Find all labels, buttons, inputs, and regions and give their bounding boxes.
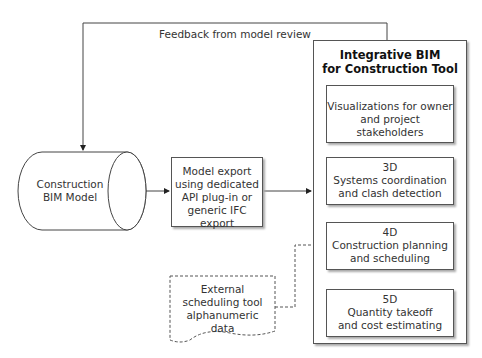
integrative-bim-tool-box: Integrative BIM for Construction Tool Vi…	[313, 40, 467, 344]
export-line: Model export	[172, 165, 262, 178]
module-tag: 5D	[327, 293, 453, 306]
module-text: 5D Quantity takeoff and cost estimating	[327, 293, 453, 332]
export-line: generic IFC export	[172, 204, 262, 230]
tool-title-line1: Integrative BIM	[314, 48, 466, 62]
external-data-label: External scheduling tool alphanumeric da…	[170, 283, 275, 335]
model-export-box: Model export using dedicated API plug-in…	[171, 157, 263, 227]
module-line: Construction planning	[327, 239, 453, 252]
module-3d: 3D Systems coordination and clash detect…	[326, 157, 454, 205]
module-line: Systems coordination	[327, 174, 453, 187]
module-line: and scheduling	[327, 252, 453, 265]
module-line: and project stakeholders	[327, 113, 453, 139]
module-line: and cost estimating	[327, 319, 453, 332]
module-text: 4D Construction planning and scheduling	[327, 226, 453, 265]
external-line: scheduling tool	[170, 296, 275, 309]
export-line: using dedicated	[172, 178, 262, 191]
module-line: Quantity takeoff	[327, 306, 453, 319]
feedback-label: Feedback from model review	[150, 28, 320, 41]
model-export-text: Model export using dedicated API plug-in…	[172, 165, 262, 230]
module-tag: 4D	[327, 226, 453, 239]
module-line: and clash detection	[327, 187, 453, 200]
module-4d: 4D Construction planning and scheduling	[326, 222, 454, 270]
export-line: API plug-in or	[172, 191, 262, 204]
module-text: Visualizations for owner and project sta…	[327, 100, 453, 139]
module-5d: 5D Quantity takeoff and cost estimating	[326, 289, 454, 337]
external-line: External	[170, 283, 275, 296]
module-tag: 3D	[327, 161, 453, 174]
cylinder-label-line2: BIM Model	[20, 191, 120, 204]
external-line: data	[170, 322, 275, 335]
module-text: 3D Systems coordination and clash detect…	[327, 161, 453, 200]
tool-title: Integrative BIM for Construction Tool	[314, 48, 466, 76]
cylinder-label-line1: Construction	[20, 178, 120, 191]
module-visualizations: Visualizations for owner and project sta…	[326, 85, 454, 143]
module-line: Visualizations for owner	[327, 100, 453, 113]
cylinder-label: Construction BIM Model	[20, 178, 120, 204]
tool-title-line2: for Construction Tool	[314, 62, 466, 76]
external-line: alphanumeric	[170, 309, 275, 322]
